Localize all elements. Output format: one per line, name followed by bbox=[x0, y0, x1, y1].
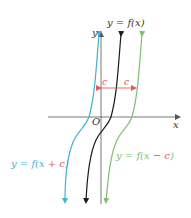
curve-label-shift-left: y = f(x + c) bbox=[11, 158, 69, 169]
shift-label-left: c bbox=[102, 77, 107, 87]
y-axis-label: y bbox=[92, 27, 98, 38]
curve-label-shift-right: y = f(x − c) bbox=[116, 150, 174, 161]
label-part: y = f(x bbox=[116, 150, 153, 161]
origin-label: O bbox=[92, 116, 100, 127]
label-part-c: − c bbox=[153, 150, 170, 161]
label-part: ) bbox=[65, 158, 69, 169]
label-part-c: + c bbox=[48, 158, 65, 169]
x-axis-label: x bbox=[173, 119, 179, 130]
curve-label-original: y = f(x) bbox=[107, 17, 145, 28]
label-part: y = f(x bbox=[11, 158, 48, 169]
shift-label-right: c bbox=[124, 77, 129, 87]
label-part: ) bbox=[170, 150, 174, 161]
